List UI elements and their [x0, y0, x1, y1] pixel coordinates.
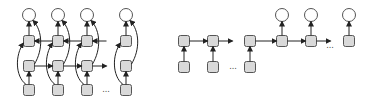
output-node: [52, 9, 65, 22]
input-node: [53, 85, 64, 96]
encoder-decoder-diagram: ......: [179, 9, 356, 73]
ellipsis-text: ...: [326, 41, 334, 50]
encoder-input-node: [179, 62, 190, 73]
backward-hidden-node: [121, 36, 132, 47]
output-node: [343, 9, 356, 22]
encoder-hidden-node: [179, 36, 190, 47]
backward-hidden-node: [24, 36, 35, 47]
input-node: [121, 85, 132, 96]
forward-hidden-node: [24, 61, 35, 72]
bidirectional-rnn-diagram: ...: [17, 9, 137, 96]
ellipsis-text: ...: [102, 85, 110, 94]
encoder-hidden-node: [208, 36, 219, 47]
decoder-hidden-node: [277, 36, 288, 47]
forward-hidden-node: [53, 61, 64, 72]
output-node: [305, 9, 318, 22]
decoder-hidden-node: [306, 36, 317, 47]
encoder-hidden-node: [245, 36, 256, 47]
backward-hidden-node: [53, 36, 64, 47]
output-node: [23, 9, 36, 22]
encoder-input-node: [208, 62, 219, 73]
forward-hidden-node: [82, 61, 93, 72]
output-node: [120, 9, 133, 22]
output-node: [276, 9, 289, 22]
encoder-input-node: [245, 62, 256, 73]
input-node: [24, 85, 35, 96]
forward-hidden-node: [121, 61, 132, 72]
backward-hidden-node: [82, 36, 93, 47]
rnn-diagrams: ... ......: [0, 0, 370, 102]
output-node: [81, 9, 94, 22]
input-node: [82, 85, 93, 96]
diagram-canvas: ... ......: [0, 0, 370, 102]
ellipsis-text: ...: [229, 62, 237, 71]
decoder-hidden-node: [344, 36, 355, 47]
